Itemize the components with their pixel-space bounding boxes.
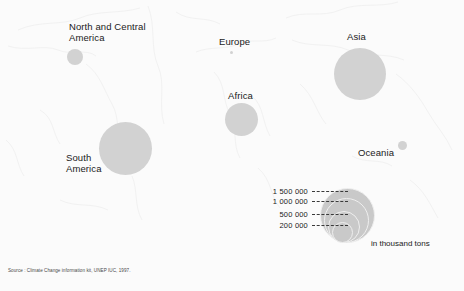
label-south-america: South America bbox=[66, 152, 102, 174]
units-label: in thousand tons bbox=[371, 239, 430, 248]
legend-label-1000000: 1 000 000 bbox=[258, 197, 308, 206]
label-africa: Africa bbox=[228, 90, 253, 101]
bubble-asia[interactable] bbox=[334, 48, 386, 100]
bubble-africa[interactable] bbox=[225, 103, 258, 136]
bubble-oceania[interactable] bbox=[398, 141, 407, 150]
bubble-south-america[interactable] bbox=[99, 122, 152, 175]
label-europe: Europe bbox=[219, 36, 250, 47]
bubble-map-chart: North and Central America South America … bbox=[0, 0, 464, 291]
legend-label-1500000: 1 500 000 bbox=[258, 187, 308, 196]
legend-leader-500000 bbox=[312, 214, 348, 215]
legend-label-500000: 500 000 bbox=[258, 210, 308, 219]
label-north-and-central-america: North and Central America bbox=[69, 21, 146, 43]
source-note: Source : Climate Change information kit,… bbox=[8, 268, 130, 273]
label-oceania: Oceania bbox=[358, 147, 394, 158]
legend-label-200000: 200 000 bbox=[258, 221, 308, 230]
legend-leader-1500000 bbox=[312, 191, 348, 192]
legend-leader-200000 bbox=[312, 225, 348, 226]
legend-leader-1000000 bbox=[312, 201, 348, 202]
bubble-north-and-central-america[interactable] bbox=[67, 49, 83, 65]
label-asia: Asia bbox=[347, 31, 366, 42]
bubble-europe[interactable] bbox=[230, 51, 233, 54]
